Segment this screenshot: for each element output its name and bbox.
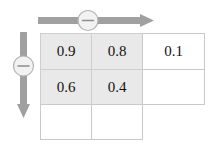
grid-cell-r1-c1[interactable]: 0.4 bbox=[91, 69, 143, 105]
horizontal-slider-arrow[interactable] bbox=[36, 8, 156, 36]
grid-cell-r2-c1[interactable] bbox=[91, 104, 143, 140]
figure-canvas: 0.9 0.8 0.1 0.6 0.4 bbox=[0, 0, 214, 149]
vertical-minus-knob[interactable] bbox=[14, 56, 34, 76]
grid-cell-r1-c0[interactable]: 0.6 bbox=[40, 69, 92, 105]
vertical-slider-arrow[interactable] bbox=[8, 30, 40, 120]
grid-cell-r2-c0[interactable] bbox=[40, 104, 92, 140]
grid-cell-r0-c1[interactable]: 0.8 bbox=[91, 33, 143, 70]
grid-cell-r0-c2[interactable]: 0.1 bbox=[142, 33, 205, 70]
horizontal-arrow-head bbox=[140, 14, 154, 27]
vertical-arrow-head bbox=[17, 104, 30, 118]
grid-cell-r1-c2[interactable] bbox=[142, 69, 205, 105]
grid-cell-r0-c0[interactable]: 0.9 bbox=[40, 33, 92, 70]
value-grid: 0.9 0.8 0.1 0.6 0.4 bbox=[40, 33, 205, 140]
horizontal-minus-knob[interactable] bbox=[78, 11, 98, 31]
